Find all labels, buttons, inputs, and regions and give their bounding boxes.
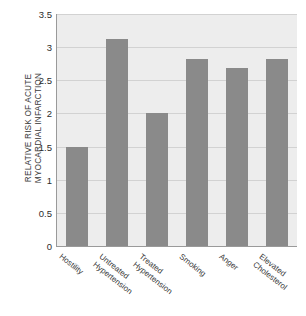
y-tick-label: 3	[22, 42, 52, 53]
y-tick-label: 2.5	[22, 75, 52, 86]
bar-slot	[257, 14, 297, 246]
bar[interactable]	[146, 113, 168, 246]
x-tick-slot: Hostility	[56, 248, 96, 316]
y-tick-label: 1.5	[22, 141, 52, 152]
y-tick-label: 2	[22, 108, 52, 119]
x-tick-slot: ElevatedCholesterol	[256, 248, 296, 316]
bar-slot	[177, 14, 217, 246]
x-tick-label: Anger	[217, 252, 240, 273]
y-tick-label: 0	[22, 241, 52, 252]
x-tick-slot: UntreatedHypertension	[96, 248, 136, 316]
bar-slot	[97, 14, 137, 246]
x-tick-label: Hostility	[57, 252, 85, 277]
x-tick-label-line: Anger	[217, 252, 240, 273]
x-tick-label: TreatedHypertension	[131, 252, 180, 296]
bar-slot	[217, 14, 257, 246]
bar[interactable]	[186, 59, 208, 246]
bar[interactable]	[66, 147, 88, 246]
y-tick-label: 1	[22, 174, 52, 185]
plot-area	[56, 14, 297, 247]
x-tick-label-line: Smoking	[177, 252, 207, 279]
bar-chart-figure: RELATIVE RISK OF ACUTE MYOCARDIAL INFARC…	[0, 0, 306, 316]
x-tick-label: Smoking	[177, 252, 207, 279]
y-tick-label: 0.5	[22, 207, 52, 218]
bar[interactable]	[106, 39, 128, 246]
x-tick-label: ElevatedCholesterol	[251, 252, 295, 292]
y-tick-label: 3.5	[22, 9, 52, 20]
bar[interactable]	[266, 59, 288, 246]
y-axis-tick-labels: 00.511.522.533.5	[22, 14, 52, 246]
chart-title-faint	[56, 0, 296, 11]
bar-slot	[137, 14, 177, 246]
x-tick-slot: Anger	[216, 248, 256, 316]
bar-series	[57, 14, 297, 246]
x-tick-label: UntreatedHypertension	[91, 252, 140, 296]
x-axis-tick-labels: HostilityUntreatedHypertensionTreatedHyp…	[56, 248, 296, 316]
x-tick-slot: TreatedHypertension	[136, 248, 176, 316]
x-tick-label-line: Hostility	[57, 252, 85, 277]
bar-slot	[57, 14, 97, 246]
bar[interactable]	[226, 68, 248, 246]
x-tick-slot: Smoking	[176, 248, 216, 316]
